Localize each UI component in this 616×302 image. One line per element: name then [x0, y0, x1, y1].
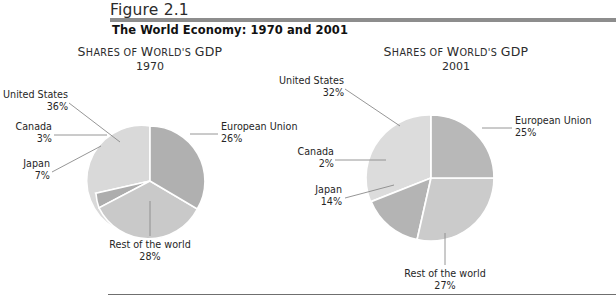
- chart-title-part-s: S: [78, 44, 86, 59]
- pie-area-1970: United States 36% Canada 3% Japan 7% Res…: [0, 73, 300, 291]
- label-european-union-1970-value: 26%: [221, 133, 301, 145]
- chart-title-part-gdp: GDP: [195, 44, 223, 59]
- pie-area-2001: United States 32% Canada 2% Japan 14% Re…: [296, 73, 616, 291]
- label-united-states-1970: United States 36%: [0, 89, 68, 112]
- slice-european-union-2001: [431, 115, 494, 178]
- chart-title-part-orlds: ORLD'S: [153, 47, 194, 58]
- chart-year-2001: 2001: [296, 60, 616, 73]
- label-european-union-2001-value: 25%: [515, 127, 605, 139]
- chart-title-2001-part-s: S: [384, 44, 392, 59]
- chart-title-part-w: W: [141, 44, 154, 59]
- label-european-union-2001-name: European Union: [515, 115, 591, 126]
- figure-title: The World Economy: 1970 and 2001: [112, 23, 348, 37]
- label-japan-1970: Japan 7%: [0, 158, 50, 181]
- chart-title-2001-part-orlds: ORLD'S: [459, 47, 500, 58]
- chart-gdp-shares-1970: SHARES OF WORLD'S GDP 1970: [0, 44, 300, 291]
- slice-rest-of-world-2001: [417, 178, 494, 241]
- label-rest-of-world-2001: Rest of the world 27%: [385, 268, 505, 291]
- pie-slices-1970: [87, 125, 205, 238]
- leader-united-states-1970: [69, 103, 120, 142]
- chart-title-2001-part-gdp: GDP: [501, 44, 529, 59]
- footer-rule: [108, 294, 616, 295]
- label-rest-of-world-1970: Rest of the world 28%: [90, 239, 210, 262]
- label-japan-1970-value: 7%: [0, 170, 50, 182]
- label-european-union-1970-name: European Union: [221, 121, 297, 132]
- label-japan-2001-value: 14%: [292, 196, 342, 208]
- label-european-union-2001: European Union 25%: [515, 115, 605, 138]
- figure-page: Figure 2.1 The World Economy: 1970 and 2…: [0, 0, 616, 302]
- label-canada-2001: Canada 2%: [282, 146, 334, 169]
- header-rule: [110, 18, 616, 22]
- label-rest-of-world-1970-value: 28%: [90, 251, 210, 263]
- label-united-states-1970-name: United States: [3, 89, 68, 100]
- label-european-union-1970: European Union 26%: [221, 121, 301, 144]
- chart-title-2001-part-w: W: [447, 44, 460, 59]
- label-canada-2001-name: Canada: [297, 146, 334, 157]
- label-canada-2001-value: 2%: [282, 158, 334, 170]
- chart-title-2001: SHARES OF WORLD'S GDP: [296, 44, 616, 59]
- label-united-states-1970-value: 36%: [0, 101, 68, 113]
- label-japan-2001-name: Japan: [315, 184, 342, 195]
- label-united-states-2001: United States 32%: [276, 75, 344, 98]
- label-canada-1970-value: 3%: [0, 133, 52, 145]
- chart-title-part-hares-of: HARES OF: [86, 47, 141, 58]
- chart-title-2001-part-hares-of: HARES OF: [392, 47, 447, 58]
- label-canada-1970-name: Canada: [15, 121, 52, 132]
- label-rest-of-world-1970-name: Rest of the world: [109, 239, 190, 250]
- label-rest-of-world-2001-name: Rest of the world: [404, 268, 485, 279]
- figure-label: Figure 2.1: [110, 1, 189, 19]
- leader-united-states-2001: [345, 89, 400, 126]
- label-canada-1970: Canada 3%: [0, 121, 52, 144]
- label-japan-2001: Japan 14%: [292, 184, 342, 207]
- label-rest-of-world-2001-value: 27%: [385, 280, 505, 292]
- chart-year-1970: 1970: [0, 60, 300, 73]
- pie-svg-2001: [296, 73, 616, 291]
- label-united-states-2001-name: United States: [279, 75, 344, 86]
- label-japan-1970-name: Japan: [23, 158, 50, 169]
- chart-title-1970: SHARES OF WORLD'S GDP: [0, 44, 300, 59]
- chart-gdp-shares-2001: SHARES OF WORLD'S GDP 2001: [296, 44, 616, 291]
- pie-slices-2001: [366, 115, 494, 241]
- label-united-states-2001-value: 32%: [276, 87, 344, 99]
